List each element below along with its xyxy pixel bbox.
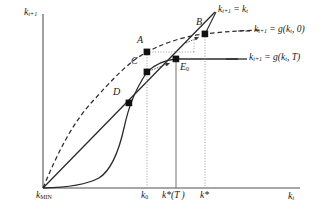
x-tick-k-star-T: k*(T ) (162, 190, 185, 200)
point-E0-label: E0 (180, 61, 189, 72)
x-axis-label: kt (288, 190, 294, 201)
point-D-marker (126, 100, 133, 107)
point-B-label: B (196, 16, 202, 27)
x-tick-k-min: kMIN (36, 190, 52, 200)
point-C-label: C (131, 55, 138, 66)
phase-diagram: kt+1 kt kt+1 = kt kt+1 = g(kt, 0) kt+1 =… (0, 0, 325, 212)
x-tick-k-star: k* (200, 190, 209, 200)
legend-g-k-T: kt+1 = g(kt, T) (249, 52, 300, 62)
legend-g-k-0: kt+1 = g(kt, 0) (254, 24, 305, 34)
y-axis-label: kt+1 (24, 6, 37, 17)
g-k-0-curve (43, 30, 262, 188)
point-B-marker (202, 31, 209, 38)
point-A-marker (144, 49, 151, 56)
point-C-marker (144, 69, 151, 76)
g-k-T-curve (43, 59, 238, 188)
legend-identity-line: kt+1 = kt (218, 4, 248, 14)
point-E0-marker (173, 56, 180, 63)
x-tick-k-zero: k0 (141, 190, 148, 200)
point-A-label: A (137, 34, 143, 45)
point-D-label: D (113, 86, 120, 97)
